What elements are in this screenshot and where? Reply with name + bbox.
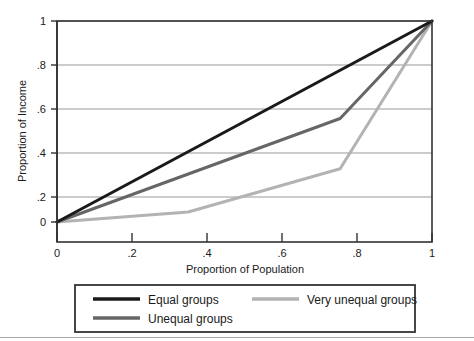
page-bottom-rule [0,337,474,338]
x-tick-label-1: 1 [429,247,435,259]
x-tick-label-0.8: .8 [352,247,361,259]
legend-label-unequal-groups: Unequal groups [148,312,233,326]
x-tick-label-0.6: .6 [277,247,286,259]
lorenz-curve-figure: 1 .8 .6 .4 .2 0 0 .2 .4 .6 .8 1 Proporti… [0,0,474,341]
y-tick-label-0: 0 [40,216,46,228]
y-tick-label-0.4: .4 [37,147,46,159]
plot-area-background [57,21,432,242]
chart-canvas: 1 .8 .6 .4 .2 0 0 .2 .4 .6 .8 1 Proporti… [0,0,474,341]
y-tick-label-0.6: .6 [37,103,46,115]
legend-label-equal-groups: Equal groups [148,293,219,307]
legend: Equal groups Unequal groups Very unequal… [75,285,417,332]
y-tick-label-1: 1 [40,15,46,27]
legend-label-very-unequal-groups: Very unequal groups [307,293,417,307]
x-tick-label-0.4: .4 [202,247,211,259]
x-tick-label-0: 0 [54,247,60,259]
x-tick-label-0.2: .2 [127,247,136,259]
y-axis-ticks [51,21,57,222]
x-axis-title: Proportion of Population [186,263,304,275]
y-tick-label-0.2: .2 [37,191,46,203]
y-axis-title: Proportion of Income [16,80,28,182]
y-tick-label-0.8: .8 [37,59,46,71]
